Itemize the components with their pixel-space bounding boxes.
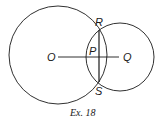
label-r: R: [95, 16, 103, 28]
caption: Ex. 18: [69, 107, 96, 118]
label-p: P: [89, 45, 97, 57]
label-q: Q: [123, 51, 132, 63]
label-o: O: [47, 51, 56, 63]
geometry-diagram: O P Q R S Ex. 18: [0, 0, 167, 125]
label-s: S: [95, 85, 103, 97]
